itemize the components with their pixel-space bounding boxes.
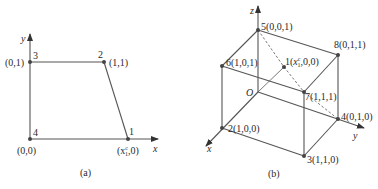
- label-node-5: 5(0,0,1): [261, 21, 293, 33]
- node-4-a: [28, 137, 32, 141]
- edge-3-4: [304, 119, 338, 156]
- dashed-5-1: [258, 30, 284, 67]
- x-axis-label-a: x: [152, 143, 158, 154]
- y-axis-label-a: y: [20, 33, 26, 44]
- node-8-b: [336, 53, 340, 57]
- node-1-a: [126, 137, 130, 141]
- coord-4-a: (0,0): [17, 145, 36, 157]
- x-axis-label-b: x: [206, 143, 212, 154]
- node-id-2-a: 2: [98, 49, 103, 60]
- z-axis-label-b: z: [249, 5, 254, 16]
- coord-3-a: (0,1): [5, 57, 24, 69]
- diagram-b: z x y O 5(0,0,1) 6(1,0,1) 8(0,1,1) 1(xc1…: [206, 5, 373, 180]
- label-node-3: 3(1,1,0): [307, 154, 339, 166]
- label-node-1: 1(xc1,0,0): [285, 56, 319, 68]
- node-3-a: [28, 60, 32, 64]
- node-3-b: [302, 154, 306, 158]
- label-node-6: 6(1,0,1): [226, 57, 258, 69]
- edge-2-1: [104, 62, 128, 139]
- node-4-b: [336, 117, 340, 121]
- node-2-b: [220, 126, 224, 130]
- edge-1-origin: [258, 67, 284, 92]
- dashed-1-7: [284, 67, 304, 92]
- label-node-2: 2(1,0,0): [228, 123, 260, 135]
- label-node-4: 4(0,1,0): [341, 111, 373, 123]
- node-id-3-a: 3: [33, 50, 38, 61]
- node-id-4-a: 4: [33, 127, 38, 138]
- y-axis-label-b: y: [352, 130, 358, 141]
- label-node-7: 7(1,1,1): [305, 91, 337, 103]
- coord-2-a: (1,1): [109, 57, 128, 69]
- diagram-a: y x 3 2 4 1 (0,1) (1,1) (0,0) (xc1,0) (a…: [5, 33, 158, 179]
- node-6-b: [220, 64, 224, 68]
- figure-canvas: y x 3 2 4 1 (0,1) (1,1) (0,0) (xc1,0) (a…: [0, 0, 378, 189]
- origin-label-b: O: [246, 87, 253, 98]
- node-2-a: [102, 60, 106, 64]
- caption-b: (b): [268, 168, 280, 180]
- edge-6-7: [222, 66, 304, 92]
- caption-a: (a): [80, 167, 91, 179]
- coord-1-a: (xc1,0): [117, 145, 139, 157]
- label-node-8: 8(0,1,1): [334, 39, 366, 51]
- edge-5-8: [258, 30, 338, 55]
- node-id-1-a: 1: [129, 126, 134, 137]
- node-5-b: [256, 28, 260, 32]
